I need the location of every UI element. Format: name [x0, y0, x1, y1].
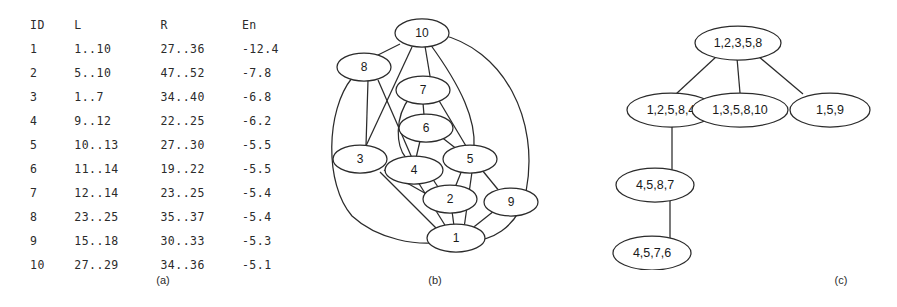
cell-id: 8	[30, 205, 74, 229]
table-row: 8 23..25 35..37 -5.4	[30, 205, 300, 229]
cell-r: 35..37	[160, 205, 242, 229]
graph-node-4[interactable]: 4	[385, 156, 443, 184]
graph-node-6[interactable]: 6	[399, 114, 453, 142]
graph-node-8[interactable]: 8	[337, 53, 391, 81]
panel-a-table: ID L R En 1 1..10 27..36 -12.4 2 5..10 4…	[0, 0, 300, 307]
graph-node-1[interactable]: 1	[427, 224, 485, 252]
graph-node-label: 3	[357, 152, 364, 166]
column-header-l: L	[74, 13, 160, 37]
graph-edge	[482, 170, 500, 192]
table-row: 9 15..18 30..33 -5.3	[30, 229, 300, 253]
table-body: 1 1..10 27..36 -12.4 2 5..10 47..52 -7.8…	[30, 37, 300, 277]
graph-node-label: 4	[411, 163, 418, 177]
cell-id: 9	[30, 229, 74, 253]
cell-r: 19..22	[160, 157, 242, 181]
graph-node-2[interactable]: 2	[423, 185, 477, 213]
cell-l: 1..10	[74, 37, 160, 61]
caption-panel-c: (c)	[821, 274, 861, 286]
cell-id: 10	[30, 253, 74, 277]
table-row: 2 5..10 47..52 -7.8	[30, 61, 300, 85]
graph-node-7[interactable]: 7	[396, 76, 450, 104]
graph-edge	[376, 44, 400, 56]
tree-node-grandchild-2[interactable]: 4,5,7,6	[613, 236, 691, 270]
helix-table: ID L R En 1 1..10 27..36 -12.4 2 5..10 4…	[30, 13, 300, 277]
cell-l: 15..18	[74, 229, 160, 253]
graph-node-label: 5	[467, 152, 474, 166]
caption-panel-a: (a)	[143, 274, 183, 286]
graph-edge	[425, 46, 430, 76]
cell-l: 9..12	[74, 109, 160, 133]
cell-l: 23..25	[74, 205, 160, 229]
caption-panel-b: (b)	[415, 274, 455, 286]
graph-node-label: 8	[361, 60, 368, 74]
cell-id: 3	[30, 85, 74, 109]
table-row: 5 10..13 27..30 -5.5	[30, 133, 300, 157]
tree-node-label: 1,5,9	[816, 103, 844, 117]
table-row: 7 12..14 23..25 -5.4	[30, 181, 300, 205]
graph-edge	[366, 80, 368, 146]
graph-node-label: 10	[415, 26, 429, 40]
cell-l: 10..13	[74, 133, 160, 157]
tree-node-child-3[interactable]: 1,5,9	[790, 93, 870, 127]
tree-edge	[737, 58, 740, 93]
column-header-id: ID	[30, 13, 74, 37]
tree-edges	[670, 56, 803, 238]
graph-nodes: 10 8 7 6 3	[333, 19, 538, 252]
tree-edge	[676, 56, 717, 94]
tree-nodes: 1,2,3,5,8 1,2,5,8,4 1,3,5,8,10 1,5,9 4,5…	[613, 26, 870, 270]
table-row: 6 11..14 19..22 -5.5	[30, 157, 300, 181]
cell-r: 23..25	[160, 181, 242, 205]
column-header-r: R	[160, 13, 242, 37]
graph-node-9[interactable]: 9	[484, 188, 538, 216]
cell-r: 30..33	[160, 229, 242, 253]
table-row: 4 9..12 22..25 -6.2	[30, 109, 300, 133]
cell-l: 11..14	[74, 157, 160, 181]
panel-b-graph: 10 8 7 6 3	[290, 0, 590, 307]
cell-r: 34..40	[160, 85, 242, 109]
tree-node-grandchild-1[interactable]: 4,5,8,7	[616, 168, 694, 202]
tree-edge	[758, 56, 803, 94]
cell-r: 27..36	[160, 37, 242, 61]
cell-r: 27..30	[160, 133, 242, 157]
figure-container: ID L R En 1 1..10 27..36 -12.4 2 5..10 4…	[0, 0, 897, 307]
cell-id: 1	[30, 37, 74, 61]
cell-id: 7	[30, 181, 74, 205]
tree-node-label: 1,2,5,8,4	[647, 103, 696, 117]
graph-svg: 10 8 7 6 3	[290, 0, 590, 270]
graph-node-label: 9	[508, 195, 515, 209]
graph-node-label: 1	[453, 231, 460, 245]
graph-node-10[interactable]: 10	[395, 19, 449, 47]
cell-id: 5	[30, 133, 74, 157]
tree-node-root[interactable]: 1,2,3,5,8	[695, 26, 781, 60]
graph-node-3[interactable]: 3	[333, 145, 387, 173]
cell-l: 1..7	[74, 85, 160, 109]
tree-node-label: 4,5,8,7	[636, 178, 674, 192]
tree-node-label: 4,5,7,6	[633, 246, 671, 260]
cell-id: 2	[30, 61, 74, 85]
cell-id: 4	[30, 109, 74, 133]
tree-node-label: 1,3,5,8,10	[712, 103, 768, 117]
cell-l: 12..14	[74, 181, 160, 205]
graph-node-label: 2	[447, 192, 454, 206]
tree-node-label: 1,2,3,5,8	[714, 36, 763, 50]
tree-node-child-2[interactable]: 1,3,5,8,10	[692, 93, 788, 127]
graph-node-label: 6	[423, 121, 430, 135]
cell-id: 6	[30, 157, 74, 181]
graph-node-label: 7	[420, 83, 427, 97]
panel-c-tree: 1,2,3,5,8 1,2,5,8,4 1,3,5,8,10 1,5,9 4,5…	[580, 0, 897, 307]
table-header-row: ID L R En	[30, 13, 300, 37]
graph-edge	[423, 103, 424, 115]
tree-svg: 1,2,3,5,8 1,2,5,8,4 1,3,5,8,10 1,5,9 4,5…	[580, 0, 897, 270]
cell-r: 47..52	[160, 61, 242, 85]
table-row: 1 1..10 27..36 -12.4	[30, 37, 300, 61]
cell-l: 5..10	[74, 61, 160, 85]
graph-node-5[interactable]: 5	[443, 145, 497, 173]
table-row: 3 1..7 34..40 -6.8	[30, 85, 300, 109]
cell-r: 22..25	[160, 109, 242, 133]
